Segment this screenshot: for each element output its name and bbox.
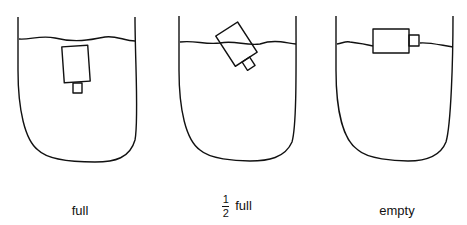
container-outline	[18, 17, 137, 162]
label-full: full	[60, 203, 100, 218]
water-line	[180, 42, 296, 45]
container-outline	[179, 16, 296, 161]
float-tab	[73, 83, 82, 93]
water-line	[337, 42, 453, 47]
fraction-numerator: 1	[223, 194, 229, 205]
container-outline	[336, 16, 453, 161]
float-body	[62, 45, 90, 83]
label-half-full: 1 2 full	[212, 194, 262, 219]
container-empty	[336, 16, 453, 161]
diagram-canvas	[0, 0, 467, 225]
water-line	[19, 37, 135, 41]
label-empty-text: empty	[379, 203, 414, 218]
float-tab	[242, 57, 255, 70]
label-empty: empty	[372, 203, 422, 218]
label-full-text: full	[72, 203, 89, 218]
float-tab	[409, 35, 419, 46]
fraction-denominator: 2	[223, 208, 229, 219]
float-body	[373, 29, 409, 53]
container-half	[179, 16, 296, 161]
label-half-text: full	[235, 198, 252, 213]
fraction-one-half: 1 2	[222, 194, 229, 219]
container-full	[18, 17, 137, 162]
